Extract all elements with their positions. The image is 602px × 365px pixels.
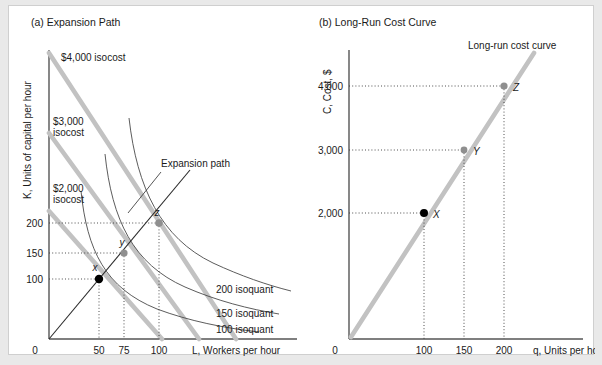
data-point-y-label: y	[119, 237, 126, 248]
panel-a-xtick-50: 50	[93, 345, 105, 356]
panel-a-chart: x y z 200 150 100 50 75 100 0 L, Workers…	[9, 6, 309, 356]
panel-b-chart: X Y Z 4,000 3,000 2,000 100 150 200 0 q,…	[305, 6, 595, 356]
long-run-cost-curve-line	[351, 53, 534, 337]
panel-a-xtick-75: 75	[118, 345, 130, 356]
isocost-3000-label-line1: $3,000	[53, 116, 84, 127]
panel-a-ytick-150: 150	[26, 248, 43, 259]
isocost-2000-line	[49, 211, 162, 339]
data-point-Z	[500, 82, 507, 89]
panel-a-xtick-100: 100	[151, 345, 168, 356]
panel-b-ytick-2000: 2,000	[318, 208, 343, 219]
panel-b-origin-label: 0	[332, 345, 338, 356]
panel-expansion-path: (a) Expansion Path	[9, 6, 309, 356]
data-point-x-label: x	[92, 262, 99, 273]
panel-a-origin-label: 0	[32, 345, 38, 356]
isoquant-200-curve	[129, 118, 291, 291]
panel-b-ytick-3000: 3,000	[318, 145, 343, 156]
isocost-2000-label-line2: isocost	[53, 194, 84, 205]
long-run-cost-curve-label: Long-run cost curve	[468, 40, 557, 51]
panel-a-ytick-100: 100	[26, 274, 43, 285]
panel-a-x-axis-label: L, Workers per hour	[192, 345, 281, 356]
panel-b-y-axis-label: C, Cost, $	[322, 69, 333, 114]
data-point-z	[155, 219, 163, 227]
data-point-Y	[461, 147, 468, 154]
data-point-Z-label: Z	[512, 82, 520, 93]
data-point-Y-label: Y	[473, 146, 481, 157]
data-point-x	[95, 275, 103, 283]
panel-long-run-cost-curve: (b) Long-Run Cost Curve X Y Z 4,000 3,0	[305, 6, 595, 356]
panel-b-x-axis-label: q, Units per hour	[533, 345, 595, 356]
data-point-y	[120, 249, 127, 256]
data-point-z-label: z	[154, 207, 160, 218]
figure-container: (a) Expansion Path	[8, 5, 594, 355]
panel-b-xtick-200: 200	[496, 345, 513, 356]
isocost-4000-label: $4,000 isocost	[61, 52, 126, 63]
panel-a-y-axis-label: K, Units of capital per hour	[22, 80, 33, 199]
isoquant-150-label: 150 isoquant	[216, 308, 273, 319]
data-point-X-label: X	[432, 209, 440, 220]
isoquant-100-label: 100 isoquant	[216, 324, 273, 335]
panel-b-xtick-100: 100	[416, 345, 433, 356]
isocost-2000-label-line1: $2,000	[53, 183, 84, 194]
data-point-X	[420, 209, 428, 217]
isocost-3000-label-line2: isocost	[53, 127, 84, 138]
panel-b-xtick-150: 150	[456, 345, 473, 356]
isoquant-200-label: 200 isoquant	[216, 284, 273, 295]
expansion-path-label: Expansion path	[161, 158, 230, 169]
panel-a-ytick-200: 200	[26, 218, 43, 229]
